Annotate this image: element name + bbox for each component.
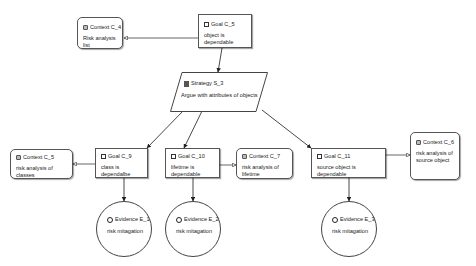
evidence-node-e2[interactable]: Evidence E_2 risk mitagation <box>165 201 221 257</box>
goal-icon <box>204 22 209 27</box>
node-id: Goal C_5 <box>211 21 235 28</box>
node-text: source object is dependable <box>317 164 385 178</box>
node-id: Context C_6 <box>423 139 454 146</box>
strategy-icon <box>184 81 189 87</box>
context-icon <box>416 140 421 145</box>
node-id: Context C_4 <box>90 24 121 31</box>
edge-c5-to-s3 <box>218 48 222 72</box>
evidence-node-e3[interactable]: Evidence E_3 risk mitagation <box>321 201 377 257</box>
node-id: Evidence E_3 <box>340 216 375 223</box>
goal-icon <box>171 154 176 159</box>
context-icon <box>16 155 21 160</box>
node-text: risk analysis of source object <box>416 150 454 164</box>
context-node-c5[interactable]: Context C_5 risk analysis of classes <box>10 149 73 179</box>
node-text: risk analysis of classes <box>16 165 72 179</box>
node-id: Goal C_10 <box>178 153 205 160</box>
evidence-icon <box>332 217 338 223</box>
node-text: risk mitagation <box>332 228 376 235</box>
node-text: risk mitagation <box>107 228 151 235</box>
context-icon <box>83 25 88 30</box>
node-text: risk mitagation <box>176 228 220 235</box>
edge-s3-to-c9 <box>147 111 183 148</box>
node-text: lifetime is dependable <box>171 164 219 178</box>
context-node-c6[interactable]: Context C_6 risk analysis of source obje… <box>410 132 460 180</box>
evidence-node-e1[interactable]: Evidence E_1 risk mitagation <box>96 201 152 257</box>
node-id: Evidence E_2 <box>184 216 219 223</box>
goal-node-c9[interactable]: Goal C_9 class is dependalbe <box>95 148 148 178</box>
node-id: Goal C_11 <box>324 153 350 160</box>
evidence-icon <box>176 217 182 223</box>
edge-s3-to-c10 <box>184 111 202 148</box>
context-node-c7[interactable]: Context C_7 risk analysis of lifetime <box>236 148 293 179</box>
node-text: object is dependable <box>204 32 251 46</box>
goal-icon <box>317 154 322 159</box>
node-id: Strategy S_3 <box>191 80 223 87</box>
context-icon <box>242 154 247 159</box>
goal-node-c11[interactable]: Goal C_11 source object is dependable <box>311 148 386 178</box>
node-text: Risk analysis list <box>83 35 122 49</box>
goal-icon <box>101 154 106 159</box>
context-node-c4[interactable]: Context C_4 Risk analysis list <box>77 17 123 49</box>
node-text: class is dependalbe <box>101 164 147 178</box>
edge-s3-to-c11 <box>262 110 311 148</box>
evidence-icon <box>107 217 113 223</box>
node-id: Goal C_9 <box>108 153 132 160</box>
node-id: Context C_7 <box>249 153 280 160</box>
goal-node-c5[interactable]: Goal C_5 object is dependable <box>198 14 252 48</box>
node-text: risk analysis of lifetime <box>242 164 292 178</box>
node-id: Context C_5 <box>23 154 54 161</box>
node-text: Argue with attributes of objects <box>181 92 258 99</box>
node-id: Evidence E_1 <box>115 216 150 223</box>
strategy-node-s3[interactable]: Strategy S_3 Argue with attributes of ob… <box>170 72 268 112</box>
goal-node-c10[interactable]: Goal C_10 lifetime is dependable <box>165 148 220 178</box>
